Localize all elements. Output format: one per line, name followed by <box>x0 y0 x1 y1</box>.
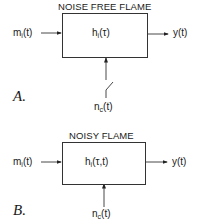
panel-b-letter: B. <box>13 202 26 219</box>
panel-b-transfer-function: hi(τ,t) <box>85 156 108 168</box>
input-arg: (t) <box>23 27 32 38</box>
panel-a-input-label: mi(t) <box>13 27 32 39</box>
panel-b-output-label: y(t) <box>172 156 186 167</box>
transfer-arg: (τ) <box>99 27 110 38</box>
panel-a-transfer-function: hi(τ) <box>92 27 110 39</box>
panel-a-title: NOISE FREE FLAME <box>58 1 151 12</box>
switch-blade-a <box>106 82 113 90</box>
panel-a-letter: A. <box>13 88 26 105</box>
panel-a-output-label: y(t) <box>173 27 187 38</box>
panel-b-noise-label: nc(t) <box>92 208 111 220</box>
transfer-arg: (τ,t) <box>92 156 108 167</box>
panel-b-title: NOISY FLAME <box>69 130 134 141</box>
input-arg: (t) <box>23 156 32 167</box>
panel-a-noise-label: nc(t) <box>94 101 113 113</box>
noise-arg: (t) <box>101 208 110 219</box>
noise-arg: (t) <box>103 101 112 112</box>
panel-b-input-label: mi(t) <box>13 156 32 168</box>
